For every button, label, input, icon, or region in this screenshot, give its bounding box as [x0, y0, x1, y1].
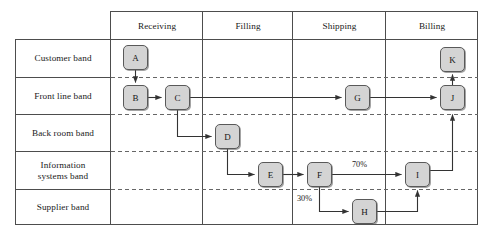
process-node-I[interactable]: I — [405, 162, 430, 187]
edge-label-text: 30% — [297, 194, 312, 203]
band-label-text: Supplier band — [37, 202, 90, 213]
process-node-label: H — [361, 207, 368, 217]
process-node-F[interactable]: F — [307, 162, 332, 187]
band-label-supplier: Supplier band — [16, 190, 110, 224]
diagram-canvas: Receiving Filling Shipping Billing Custo… — [0, 0, 491, 243]
column-header-label: Receiving — [138, 21, 176, 31]
edge-label-30-percent: 30% — [297, 194, 312, 203]
process-node-J[interactable]: J — [440, 85, 465, 110]
column-header-filling: Filling — [203, 12, 293, 40]
process-node-label: F — [317, 170, 322, 180]
column-dividers — [203, 12, 386, 225]
process-node-C[interactable]: C — [165, 85, 190, 110]
process-node-label: G — [354, 93, 361, 103]
process-node-label: K — [449, 55, 456, 65]
process-node-B[interactable]: B — [123, 85, 148, 110]
edge-I-J — [430, 115, 453, 171]
process-node-label: E — [268, 170, 274, 180]
column-header-label: Filling — [235, 21, 260, 31]
column-header-label: Shipping — [323, 21, 357, 31]
process-node-label: A — [132, 53, 139, 63]
matrix-frame — [111, 12, 478, 225]
band-label-customer: Customer band — [16, 40, 110, 77]
process-node-label: D — [224, 132, 231, 142]
band-label-text: Customer band — [34, 53, 91, 64]
process-node-label: B — [132, 93, 138, 103]
process-node-A[interactable]: A — [123, 45, 148, 70]
band-label-information-systems: Information systems band — [16, 152, 110, 189]
process-node-D[interactable]: D — [215, 124, 240, 149]
process-node-label: I — [416, 170, 419, 180]
column-header-billing: Billing — [386, 12, 478, 40]
edge-label-text: 70% — [352, 160, 367, 169]
edge-H-I — [377, 191, 418, 212]
band-label-back-room: Back room band — [16, 115, 110, 151]
edge-C-D — [178, 110, 212, 137]
column-header-shipping: Shipping — [293, 12, 386, 40]
process-node-K[interactable]: K — [440, 47, 465, 72]
band-label-text: Front line band — [34, 91, 92, 102]
edge-label-70-percent: 70% — [352, 160, 367, 169]
process-node-G[interactable]: G — [345, 85, 370, 110]
process-node-label: C — [174, 93, 180, 103]
band-label-front-line: Front line band — [16, 78, 110, 114]
band-label-text: Information systems band — [38, 160, 88, 182]
band-label-text: Back room band — [32, 128, 94, 139]
process-node-E[interactable]: E — [258, 162, 283, 187]
process-node-H[interactable]: H — [352, 199, 377, 224]
column-header-receiving: Receiving — [111, 12, 203, 40]
process-node-label: J — [451, 93, 455, 103]
column-header-label: Billing — [419, 21, 445, 31]
